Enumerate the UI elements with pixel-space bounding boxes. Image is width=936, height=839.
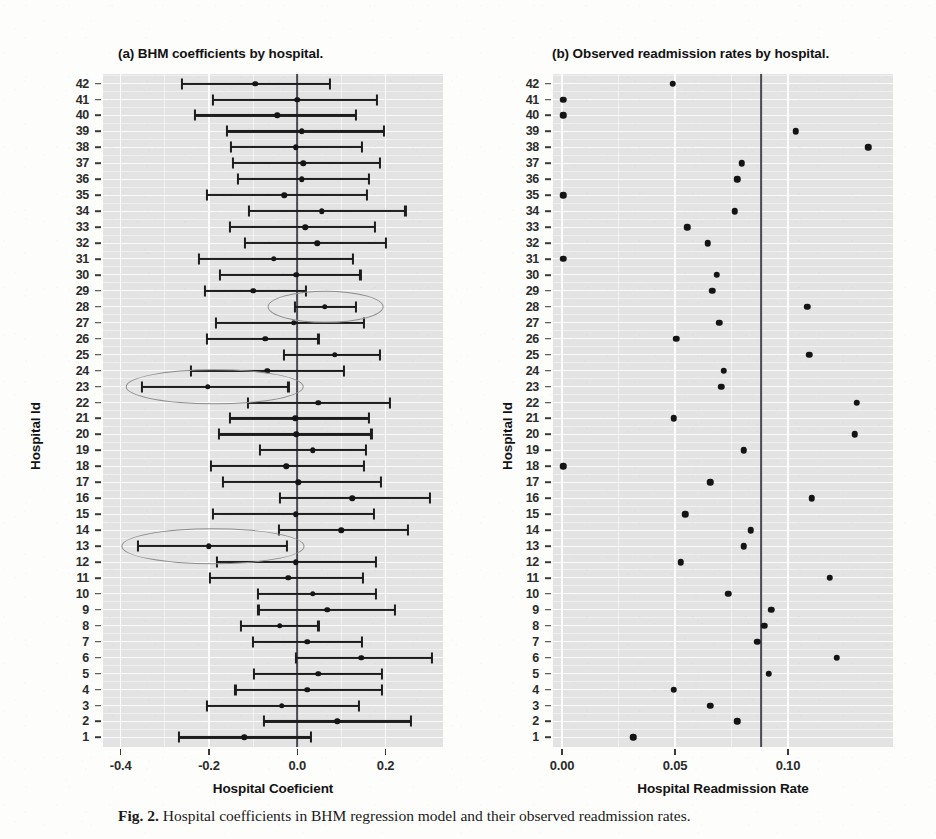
confidence-interval-cap-upper xyxy=(374,222,376,233)
y-axis-tick-label: 32 xyxy=(63,236,89,250)
gridline-horizontal-minor xyxy=(103,601,443,602)
confidence-interval-cap-upper xyxy=(407,525,409,536)
gridline-horizontal-minor xyxy=(553,617,893,618)
confidence-interval-cap-lower xyxy=(294,301,296,312)
data-point xyxy=(793,128,800,135)
confidence-interval-cap-upper xyxy=(370,429,372,440)
y-axis-tick-mark xyxy=(95,370,101,372)
gridline-vertical xyxy=(674,74,676,747)
y-axis-tick-label: 24 xyxy=(63,364,89,378)
confidence-interval-cap-lower xyxy=(240,620,242,631)
confidence-interval-cap-lower xyxy=(219,269,221,280)
y-axis-tick-label: 8 xyxy=(513,619,539,633)
y-axis-tick-mark xyxy=(95,338,101,340)
data-point xyxy=(560,96,567,103)
gridline-horizontal xyxy=(553,546,893,547)
estimate-point xyxy=(294,432,300,438)
data-point xyxy=(761,623,768,630)
gridline-horizontal xyxy=(553,609,893,610)
confidence-interval-line xyxy=(230,417,369,419)
y-axis-tick-mark xyxy=(545,593,551,595)
x-axis-tick-label: 0.10 xyxy=(776,758,801,773)
confidence-interval-cap-upper xyxy=(366,190,368,201)
gridline-horizontal xyxy=(553,673,893,674)
gridline-horizontal-minor xyxy=(103,729,443,730)
gridline-vertical xyxy=(787,74,789,747)
y-axis-tick-mark xyxy=(545,721,551,723)
gridline-horizontal xyxy=(553,131,893,132)
y-axis-tick-mark xyxy=(545,609,551,611)
figure-caption: Fig. 2. Hospital coefficients in BHM reg… xyxy=(118,806,908,826)
gridline-horizontal xyxy=(553,354,893,355)
gridline-horizontal xyxy=(553,482,893,483)
y-axis-tick-label: 6 xyxy=(63,651,89,665)
y-axis-tick-mark xyxy=(95,99,101,101)
y-axis-tick-label: 17 xyxy=(63,475,89,489)
y-axis-tick-mark xyxy=(95,386,101,388)
reference-line xyxy=(296,74,298,747)
y-axis-tick-label: 29 xyxy=(513,284,539,298)
estimate-point xyxy=(242,735,248,741)
confidence-interval-cap-lower xyxy=(248,206,250,217)
y-axis-tick-label: 19 xyxy=(513,443,539,457)
estimate-point xyxy=(295,480,301,486)
gridline-horizontal-minor xyxy=(553,442,893,443)
gridline-horizontal xyxy=(553,306,893,307)
y-axis-tick-label: 6 xyxy=(513,651,539,665)
y-axis-tick-label: 18 xyxy=(63,459,89,473)
confidence-interval-cap-upper xyxy=(343,365,345,376)
gridline-horizontal xyxy=(553,338,893,339)
y-axis-tick-mark xyxy=(545,705,551,707)
y-axis-tick-label: 23 xyxy=(63,380,89,394)
reference-line xyxy=(760,74,762,747)
confidence-interval-cap-upper xyxy=(286,541,288,552)
confidence-interval-cap-lower xyxy=(232,158,234,169)
confidence-interval-line xyxy=(227,130,385,132)
confidence-interval-cap-lower xyxy=(237,174,239,185)
y-axis-tick-mark xyxy=(95,306,101,308)
panel-a-x-axis-title: Hospital Coeficient xyxy=(213,781,333,796)
gridline-horizontal-minor xyxy=(553,282,893,283)
y-axis-tick-label: 36 xyxy=(513,172,539,186)
gridline-horizontal xyxy=(553,211,893,212)
confidence-interval-cap-lower xyxy=(206,333,208,344)
y-axis-tick-mark xyxy=(95,418,101,420)
y-axis-tick-mark xyxy=(545,545,551,547)
confidence-interval-cap-upper xyxy=(379,158,381,169)
confidence-interval-cap-upper xyxy=(365,445,367,456)
y-axis-tick-label: 13 xyxy=(513,539,539,553)
data-point xyxy=(741,447,748,454)
y-axis-tick-mark xyxy=(545,131,551,133)
confidence-interval-cap-upper xyxy=(381,684,383,695)
estimate-point xyxy=(339,527,345,533)
y-axis-tick-mark xyxy=(95,609,101,611)
confidence-interval-line xyxy=(249,210,406,212)
y-axis-tick-label: 34 xyxy=(63,204,89,218)
y-axis-tick-label: 4 xyxy=(63,683,89,697)
confidence-interval-cap-upper xyxy=(363,461,365,472)
confidence-interval-cap-lower xyxy=(279,493,281,504)
y-axis-tick-mark xyxy=(545,210,551,212)
gridline-horizontal xyxy=(553,466,893,467)
y-axis-tick-mark xyxy=(95,721,101,723)
y-axis-tick-mark xyxy=(545,689,551,691)
confidence-interval-cap-lower xyxy=(190,365,192,376)
gridline-vertical xyxy=(561,74,563,747)
gridline-horizontal-minor xyxy=(103,442,443,443)
data-point xyxy=(738,160,745,167)
y-axis-tick-mark xyxy=(95,497,101,499)
confidence-interval-cap-lower xyxy=(230,142,232,153)
x-axis-tick-mark xyxy=(674,749,675,755)
estimate-point xyxy=(310,591,316,597)
y-axis-tick-mark xyxy=(95,513,101,515)
gridline-horizontal xyxy=(553,434,893,435)
data-point xyxy=(768,607,775,614)
confidence-interval-cap-upper xyxy=(375,588,377,599)
y-axis-tick-mark xyxy=(95,194,101,196)
y-axis-tick-mark xyxy=(95,673,101,675)
confidence-interval-cap-lower xyxy=(226,126,228,137)
data-point xyxy=(826,575,833,582)
gridline-horizontal-minor xyxy=(103,378,443,379)
gridline-horizontal-minor xyxy=(103,298,443,299)
gridline-horizontal-minor xyxy=(553,633,893,634)
